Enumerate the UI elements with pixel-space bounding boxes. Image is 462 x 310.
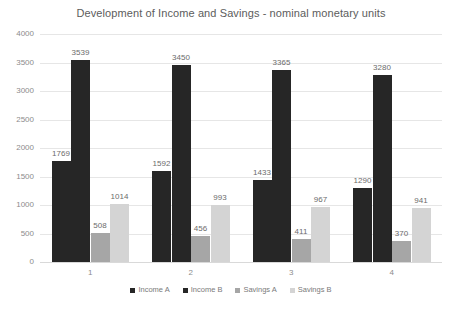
y-axis-tick-label: 3500 (2, 59, 34, 67)
legend-swatch-icon (130, 288, 135, 293)
x-axis-tick-label: 4 (372, 268, 412, 277)
bar[interactable] (152, 171, 171, 262)
legend-item[interactable]: Savings A (235, 286, 276, 294)
x-axis-tick-label: 2 (171, 268, 211, 277)
bar[interactable] (52, 161, 71, 262)
bar[interactable] (253, 180, 272, 262)
chart-legend: Income AIncome BSavings ASavings B (0, 286, 462, 294)
bar[interactable] (211, 205, 230, 262)
bar[interactable] (292, 239, 311, 262)
legend-swatch-icon (290, 288, 295, 293)
bar[interactable] (392, 241, 411, 262)
gridline (40, 34, 442, 35)
bar-value-label: 941 (404, 197, 439, 205)
bar-value-label: 3365 (264, 59, 299, 67)
legend-label: Savings B (298, 286, 332, 294)
bar[interactable] (91, 233, 110, 262)
chart-container: Development of Income and Savings - nomi… (0, 0, 462, 310)
bar[interactable] (191, 236, 210, 262)
y-axis-tick-label: 2500 (2, 116, 34, 124)
y-axis-tick-label: 0 (2, 258, 34, 266)
bar-value-label: 993 (203, 194, 238, 202)
y-axis-tick-label: 4000 (2, 30, 34, 38)
legend-item[interactable]: Savings B (290, 286, 332, 294)
bar[interactable] (311, 207, 330, 262)
legend-label: Income A (138, 286, 169, 294)
legend-item[interactable]: Income B (183, 286, 223, 294)
bar[interactable] (71, 60, 90, 262)
y-axis-tick-label: 3000 (2, 87, 34, 95)
y-axis-tick-label: 500 (2, 230, 34, 238)
bar-value-label: 1014 (102, 193, 137, 201)
bar[interactable] (412, 208, 431, 262)
legend-swatch-icon (235, 288, 240, 293)
bar-value-label: 3539 (63, 49, 98, 57)
plot-area: 0500100015002000250030003500400017693539… (40, 34, 442, 262)
gridline (40, 262, 442, 263)
bar[interactable] (110, 204, 129, 262)
legend-swatch-icon (183, 288, 188, 293)
bar-value-label: 3280 (365, 64, 400, 72)
bar-value-label: 967 (303, 196, 338, 204)
y-axis-tick-label: 2000 (2, 144, 34, 152)
legend-label: Savings A (243, 286, 276, 294)
bar[interactable] (353, 188, 372, 262)
legend-item[interactable]: Income A (130, 286, 169, 294)
y-axis-tick-label: 1000 (2, 201, 34, 209)
bar-value-label: 3450 (164, 54, 199, 62)
x-axis-tick-label: 3 (271, 268, 311, 277)
chart-title: Development of Income and Savings - nomi… (0, 7, 462, 19)
y-axis-tick-label: 1500 (2, 173, 34, 181)
x-axis-tick-label: 1 (70, 268, 110, 277)
legend-label: Income B (191, 286, 223, 294)
